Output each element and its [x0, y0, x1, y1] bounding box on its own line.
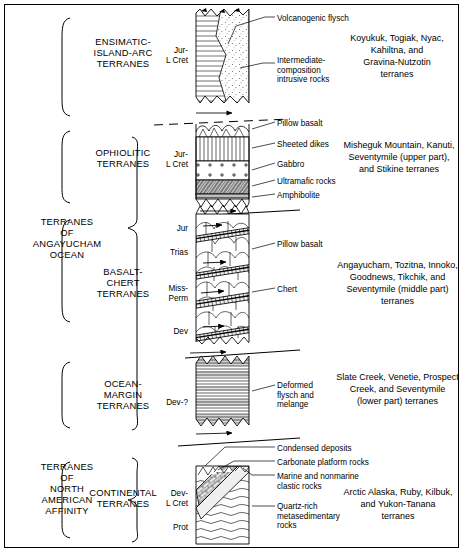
age-label-basalt-chert-miss-perm: Miss- Perm	[150, 284, 188, 303]
terrane-list-ocean-margin: Slate Creek, Venetie, Prospect Creek, an…	[330, 372, 465, 408]
group-label-angayucham: TERRANES OF ANGAYUCHAM OCEAN	[6, 216, 128, 260]
age-label-ensimatic: Jur- L Cret	[150, 46, 188, 65]
terrane-list-continental: Arctic Alaska, Ruby, Kilbuk, and Yukon-T…	[333, 487, 463, 523]
age-label-continental-prot: Prot	[148, 523, 188, 533]
age-label-ophiolitic: Jur- L Cret	[150, 150, 188, 169]
callout-ultramafic-rocks: Ultramafic rocks	[277, 177, 387, 187]
callout-condensed-deposits: Condensed deposits	[277, 444, 407, 454]
age-label-basalt-chert-jur: Jur	[150, 224, 188, 234]
figure-canvas: TERRANES OF ANGAYUCHAM OCEAN TERRANES OF…	[0, 0, 465, 554]
callout-volcanogenic-flysch: Volcanogenic flysch	[277, 14, 387, 24]
callout-pillow-basalt-ophiolite: Pillow basalt	[277, 119, 387, 129]
terrane-list-basalt-chert: Angayucham, Tozitna, Innoko, Goodnews, T…	[330, 260, 465, 308]
age-label-basalt-chert-trias: Trias	[150, 248, 188, 258]
callout-pillow-basalt-basaltchert: Pillow basalt	[277, 240, 387, 250]
age-label-ocean-margin: Dev-?	[145, 398, 188, 408]
terrane-list-ensimatic: Koyukuk, Togiak, Nyac, Kahiltna, and Gra…	[333, 33, 461, 81]
callout-amphibolite: Amphibolite	[277, 191, 387, 201]
callout-carbonate-platform-rocks: Carbonate platform rocks	[277, 458, 407, 468]
terrane-list-ophiolitic: Misheguk Mountain, Kanuti, Seventymile (…	[333, 140, 465, 176]
age-label-basalt-chert-dev: Dev	[150, 327, 188, 337]
age-label-continental-dev-lcret: Dev- L Cret	[148, 489, 188, 508]
